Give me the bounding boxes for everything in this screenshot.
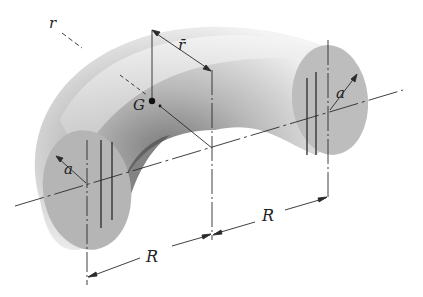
label-r-bar: r̄ — [178, 36, 186, 54]
centroid-dot — [149, 98, 155, 104]
label-R-left: R — [145, 247, 158, 266]
r-leader — [62, 33, 82, 48]
label-a-right: a — [336, 84, 345, 102]
label-G: G — [133, 96, 145, 114]
label-a-left: a — [64, 160, 73, 178]
label-r: r — [49, 14, 57, 32]
label-R-right: R — [261, 206, 274, 225]
half-torus-diagram: r r̄ G a a R R — [0, 0, 423, 297]
